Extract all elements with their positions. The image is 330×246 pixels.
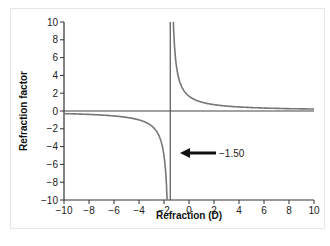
x-tick-label: −4 (133, 205, 145, 216)
y-tick-label: 8 (52, 34, 58, 45)
y-tick-label: −10 (41, 195, 58, 206)
y-tick-label: −4 (47, 141, 59, 152)
curve-left-branch (64, 114, 167, 200)
x-tick-label: 6 (261, 205, 267, 216)
annotation-label: −1.50 (219, 148, 245, 159)
y-axis-title: Refraction factor (18, 71, 29, 151)
caption-cutoff (12, 236, 322, 246)
y-tick-label: −8 (47, 177, 59, 188)
x-tick-label: 8 (286, 205, 292, 216)
y-tick-label: 2 (52, 88, 58, 99)
y-tick-label: 4 (52, 70, 58, 81)
y-axis-ticks: 1086420−2−4−6−8−10 (41, 17, 64, 206)
x-axis-title: Refraction (D) (156, 210, 222, 221)
x-tick-label: 10 (308, 205, 320, 216)
y-tick-label: 0 (52, 106, 58, 117)
y-tick-label: −6 (47, 159, 59, 170)
y-tick-label: 6 (52, 52, 58, 63)
y-tick-label: −2 (47, 123, 59, 134)
x-tick-label: −10 (56, 205, 73, 216)
x-tick-label: −6 (108, 205, 120, 216)
annotation-arrow (180, 148, 216, 158)
curve-right-branch (173, 22, 314, 109)
y-tick-label: 10 (47, 17, 59, 28)
x-tick-label: 4 (236, 205, 242, 216)
chart-plot: 1086420−2−4−6−8−10 −10−8−6−4−20246810 −1… (0, 0, 330, 246)
x-tick-label: −8 (83, 205, 95, 216)
